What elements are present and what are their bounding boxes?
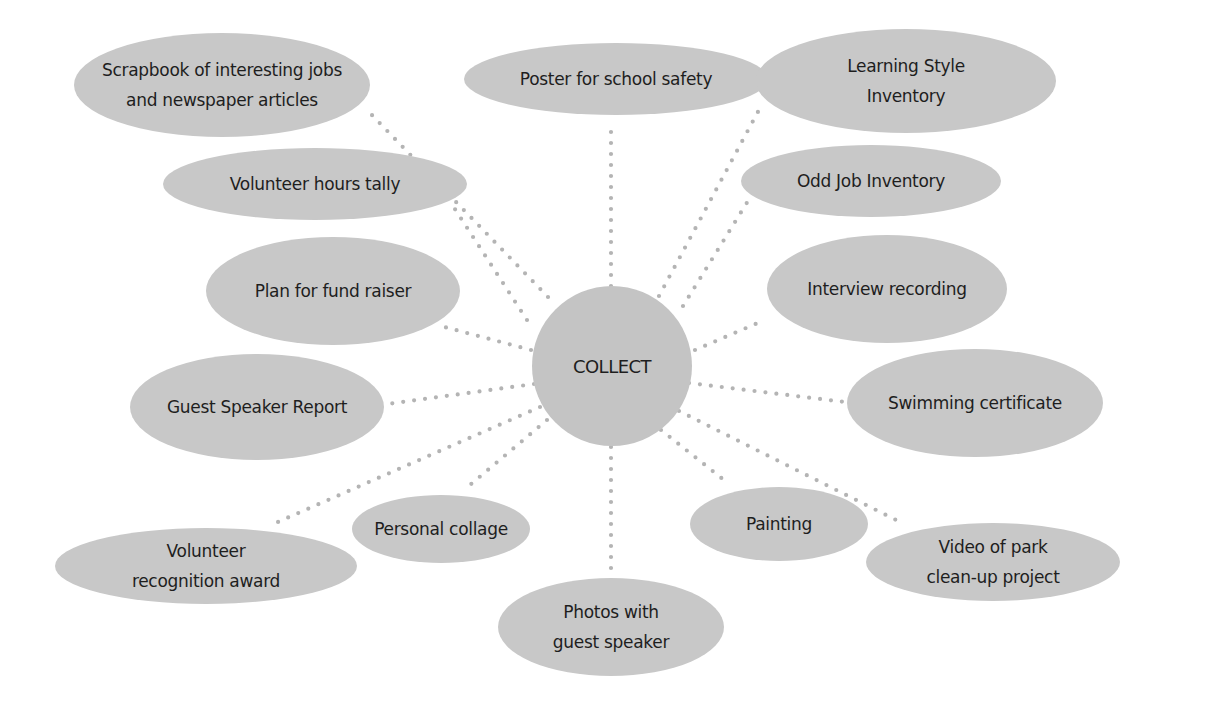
node-label: Volunteer hours tally [230,174,401,194]
node-volunteer-hours: Volunteer hours tally [163,148,467,220]
node-label: Guest Speaker Report [167,397,348,417]
node-label: Photos with [563,602,659,622]
node-ellipse [498,578,724,676]
node-scrapbook: Scrapbook of interesting jobsand newspap… [74,33,370,137]
node-label: recognition award [132,571,280,591]
node-ellipse [55,528,357,604]
node-video: Video of parkclean-up project [866,523,1120,601]
node-fund-raiser: Plan for fund raiser [206,237,460,345]
node-swimming: Swimming certificate [847,349,1103,457]
node-volunteer-recognition: Volunteerrecognition award [55,528,357,604]
node-label: Interview recording [807,279,966,299]
node-interview: Interview recording [767,235,1007,343]
node-label: Scrapbook of interesting jobs [102,60,342,80]
node-odd-job: Odd Job Inventory [741,145,1001,217]
node-label: Swimming certificate [888,393,1062,413]
node-label: clean-up project [926,567,1060,587]
center-label: COLLECT [573,356,653,377]
node-label: Volunteer [167,541,246,561]
node-label: Inventory [867,86,946,106]
node-label: Learning Style [847,56,965,76]
node-label: Poster for school safety [520,69,713,89]
node-poster: Poster for school safety [464,43,768,115]
center-node: COLLECT [532,286,692,446]
node-label: and newspaper articles [126,90,318,110]
node-personal-collage: Personal collage [352,495,530,563]
node-label: Personal collage [374,519,508,539]
node-photos: Photos withguest speaker [498,578,724,676]
node-painting: Painting [690,487,868,561]
node-label: Painting [746,514,812,534]
collect-spider-diagram: Scrapbook of interesting jobsand newspap… [0,0,1226,712]
node-label: Odd Job Inventory [797,171,945,191]
node-ellipse [866,523,1120,601]
node-label: Video of park [939,537,1048,557]
node-ellipse [74,33,370,137]
node-guest-speaker: Guest Speaker Report [130,354,384,460]
node-label: guest speaker [553,632,670,652]
node-ellipse [756,29,1056,133]
node-label: Plan for fund raiser [255,281,412,301]
node-learning-style: Learning StyleInventory [756,29,1056,133]
